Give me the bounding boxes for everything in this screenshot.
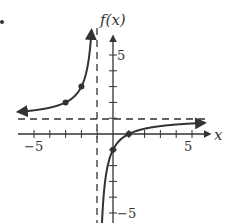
data-point: [63, 99, 69, 105]
data-point: [126, 131, 132, 137]
x-tick-label-5: 5: [184, 139, 192, 154]
y-axis-label: f(x): [99, 11, 126, 29]
y-tick-label-neg5: −5: [117, 206, 136, 221]
curve-left-branch: [18, 30, 91, 111]
x-axis-label: x: [214, 126, 223, 144]
bullet-dot: [0, 20, 4, 24]
function-graph: f(x) x −5 5 5 −5: [0, 0, 226, 223]
data-point: [110, 147, 116, 153]
x-tick-label-neg5: −5: [24, 139, 43, 154]
data-point: [78, 84, 84, 90]
y-tick-label-5: 5: [117, 48, 125, 63]
